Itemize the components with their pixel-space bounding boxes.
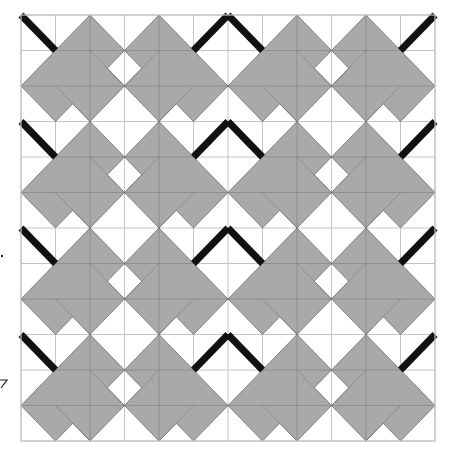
- ascending-stroke: [194, 122, 229, 158]
- ascending-stroke: [401, 122, 436, 158]
- margin-tick-seven: [0, 380, 7, 388]
- ascending-stroke: [194, 15, 229, 51]
- descending-stroke: [21, 15, 56, 51]
- descending-stroke: [21, 122, 56, 158]
- tessellation-figure: [0, 0, 450, 460]
- margin-dot: [1, 255, 3, 257]
- ascending-stroke: [401, 335, 436, 371]
- descending-stroke: [21, 335, 56, 371]
- descending-stroke: [21, 228, 56, 264]
- descending-stroke: [228, 228, 263, 264]
- descending-stroke: [228, 335, 263, 371]
- ascending-stroke: [401, 15, 436, 51]
- descending-stroke: [228, 15, 263, 51]
- ascending-stroke: [401, 228, 436, 264]
- ascending-stroke: [194, 228, 229, 264]
- margin-marks: [0, 255, 7, 388]
- descending-stroke: [228, 122, 263, 158]
- ascending-stroke: [194, 335, 229, 371]
